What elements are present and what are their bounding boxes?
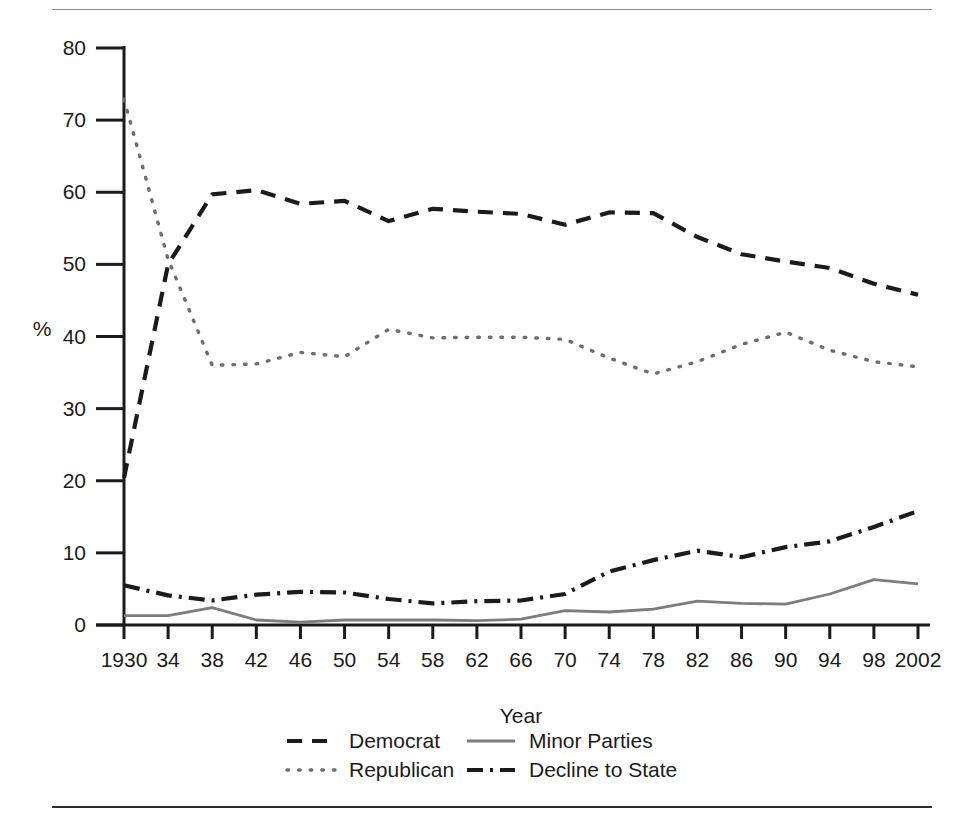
x-tick-label: 98 bbox=[862, 648, 885, 671]
x-tick-label: 70 bbox=[553, 648, 576, 671]
x-tick-label: 58 bbox=[421, 648, 444, 671]
x-tick-label: 50 bbox=[333, 648, 356, 671]
series-line-decline-to-state bbox=[124, 511, 918, 603]
x-tick-label: 94 bbox=[818, 648, 842, 671]
y-tick-label: 80 bbox=[63, 36, 86, 59]
chart-plot-area: 01020304050607080 1930343842465054586266… bbox=[0, 0, 970, 700]
x-axis-title: Year bbox=[500, 704, 542, 727]
y-tick-label: 0 bbox=[74, 613, 86, 636]
legend-label: Minor Parties bbox=[529, 729, 653, 752]
x-tick-label: 78 bbox=[642, 648, 665, 671]
x-tick-label: 62 bbox=[465, 648, 488, 671]
series-line-democrat bbox=[124, 190, 918, 478]
x-tick-label: 66 bbox=[509, 648, 532, 671]
x-tick-label: 54 bbox=[377, 648, 401, 671]
x-tick-label: 86 bbox=[730, 648, 753, 671]
series-lines bbox=[124, 99, 918, 622]
x-tick-label: 1930 bbox=[101, 648, 148, 671]
legend-label: Republican bbox=[349, 758, 454, 781]
x-tick-label: 46 bbox=[289, 648, 312, 671]
x-tick-label: 90 bbox=[774, 648, 797, 671]
legend-label: Decline to State bbox=[529, 758, 677, 781]
y-axis-title: % bbox=[33, 317, 52, 340]
legend-label: Democrat bbox=[349, 729, 440, 752]
bottom-horizontal-rule bbox=[52, 806, 932, 808]
y-tick-label: 70 bbox=[63, 108, 86, 131]
x-tick-label: 74 bbox=[598, 648, 622, 671]
y-tick-label: 30 bbox=[63, 397, 86, 420]
x-tick-label: 42 bbox=[245, 648, 268, 671]
series-line-republican bbox=[124, 99, 918, 374]
y-tick-label: 20 bbox=[63, 469, 86, 492]
figure-container: 01020304050607080 1930343842465054586266… bbox=[0, 0, 970, 828]
line-chart: 01020304050607080 1930343842465054586266… bbox=[0, 0, 970, 800]
y-tick-label: 10 bbox=[63, 541, 86, 564]
y-tick-label: 40 bbox=[63, 325, 86, 348]
x-tick-label: 34 bbox=[156, 648, 180, 671]
y-axis-ticks: 01020304050607080 bbox=[63, 36, 124, 636]
y-tick-label: 60 bbox=[63, 180, 86, 203]
chart-legend: DemocratRepublicanMinor PartiesDecline t… bbox=[287, 729, 677, 781]
x-axis-ticks: 1930343842465054586266707478828690949820… bbox=[101, 625, 942, 671]
x-tick-label: 38 bbox=[201, 648, 224, 671]
x-tick-label: 2002 bbox=[895, 648, 942, 671]
x-tick-label: 82 bbox=[686, 648, 709, 671]
y-tick-label: 50 bbox=[63, 252, 86, 275]
